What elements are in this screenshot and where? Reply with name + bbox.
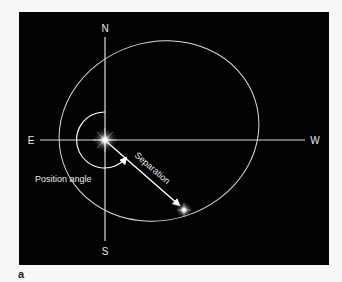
binary-star-orbit-diagram: N S E W Position angle Separation bbox=[0, 0, 342, 282]
west-label: W bbox=[310, 135, 320, 146]
position-angle-label: Position angle bbox=[35, 174, 92, 184]
orbit-ellipse bbox=[35, 15, 282, 247]
separation-label: Separation bbox=[133, 150, 172, 186]
south-label: S bbox=[102, 246, 109, 257]
east-label: E bbox=[28, 135, 35, 146]
north-label: N bbox=[101, 23, 108, 34]
figure-panel-label: a bbox=[18, 268, 24, 280]
companion-star-icon bbox=[175, 201, 193, 219]
primary-star-icon bbox=[92, 127, 118, 153]
separation-arrow bbox=[107, 142, 179, 205]
